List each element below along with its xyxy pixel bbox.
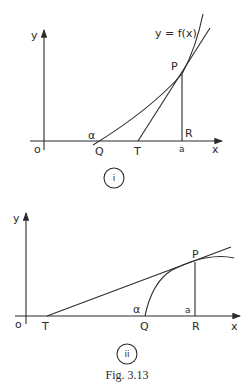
tangent-line (138, 28, 210, 141)
point-Q-label: Q (95, 145, 104, 158)
x-axis-label: x (231, 320, 238, 333)
panel-ii: y o T Q R x P α a ii (13, 212, 240, 364)
point-Q-label: Q (140, 320, 149, 333)
foot-a-label: a (185, 305, 191, 315)
point-R-label: R (185, 127, 193, 140)
curve-label: y = f(x) (155, 27, 197, 40)
point-P-label: P (192, 248, 199, 261)
panel-i: y o x y = f(x) P R Q T a α i (30, 14, 222, 188)
panel-marker-label: i (113, 173, 116, 183)
figure-caption: Fig. 3.13 (105, 368, 148, 382)
panel-marker-label: ii (124, 349, 129, 359)
y-axis-label: y (31, 29, 38, 42)
y-axis-label: y (13, 212, 20, 225)
origin-label: o (34, 143, 41, 156)
figure-canvas: y o x y = f(x) P R Q T a α i y o T Q R x… (0, 0, 250, 389)
point-R-label: R (192, 320, 200, 333)
point-T-label: T (133, 145, 141, 158)
point-T-label: T (41, 320, 49, 333)
angle-alpha-label: α (88, 129, 95, 142)
origin-label: o (15, 318, 22, 331)
angle-alpha-label: α (133, 303, 140, 316)
point-P-label: P (171, 60, 178, 73)
x-axis-label: x (212, 143, 219, 156)
foot-a-label: a (179, 144, 185, 154)
